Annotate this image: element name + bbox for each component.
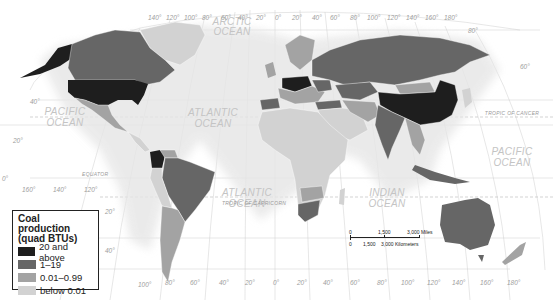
country-tasmania (478, 255, 484, 262)
legend-item-below-001: below 0.01 (18, 285, 93, 296)
scale-tick (350, 235, 351, 240)
svg-text:60°: 60° (350, 279, 360, 286)
svg-text:140°: 140° (148, 14, 162, 21)
scale-tick (384, 235, 385, 238)
legend-swatch (18, 260, 36, 269)
longitude-labels-left: 160° 140° 120° (22, 186, 98, 193)
svg-text:20°: 20° (12, 137, 23, 144)
legend-swatch (18, 273, 36, 282)
svg-text:140°: 140° (406, 14, 420, 21)
country-madagascar (339, 188, 345, 205)
svg-text:80°: 80° (377, 279, 387, 286)
longitude-labels-top: 140° 120° 100° 80° 60° 40° 20° 0° 20° 40… (148, 14, 458, 21)
svg-text:20°: 20° (296, 279, 307, 286)
svg-text:60°: 60° (330, 14, 340, 21)
scale-line (350, 237, 420, 238)
svg-text:120°: 120° (387, 14, 401, 21)
svg-text:40°: 40° (323, 279, 333, 286)
legend-swatch (18, 247, 35, 256)
svg-text:60°: 60° (221, 14, 231, 21)
svg-text:160°: 160° (480, 279, 494, 286)
svg-text:40°: 40° (312, 14, 322, 21)
svg-text:100°: 100° (401, 279, 415, 286)
svg-text:20°: 20° (291, 14, 302, 21)
svg-text:80°: 80° (350, 14, 360, 21)
equator-label: EQUATOR (82, 171, 108, 177)
scale-tick (419, 235, 420, 238)
svg-text:120°: 120° (84, 186, 98, 193)
svg-text:0°: 0° (2, 175, 9, 182)
svg-text:140°: 140° (53, 186, 67, 193)
legend-item-001-099: 0.01–0.99 (18, 272, 93, 283)
svg-text:80°: 80° (468, 27, 478, 34)
tropic-of-cancer-label: TROPIC OF CANCER (485, 110, 540, 116)
country-south-africa (298, 200, 320, 222)
legend-title: Coal production (18, 214, 93, 234)
longitude-labels-bottom: 100° 80° 60° 40° 20° 0° 20° 40° 60° 80° … (138, 279, 521, 288)
country-spain (260, 98, 280, 110)
svg-text:180°: 180° (507, 279, 521, 286)
svg-text:20°: 20° (104, 208, 115, 215)
scale-bar: 0 1,500 3,000 Miles 0 1,500 3,000 Kilome… (349, 229, 439, 253)
country-australia (440, 198, 495, 250)
svg-text:40°: 40° (30, 98, 40, 105)
svg-text:100°: 100° (184, 14, 198, 21)
atlantic-ocean-north-label: ATLANTICOCEAN (187, 107, 238, 129)
svg-text:160°: 160° (425, 14, 439, 21)
pacific-ocean-east-label: PACIFICOCEAN (492, 146, 533, 168)
svg-text:20°: 20° (255, 14, 266, 21)
svg-text:120°: 120° (427, 279, 441, 286)
svg-text:80°: 80° (165, 279, 175, 286)
legend: Coal production (quad BTUs) 20 and above… (12, 210, 99, 290)
indian-ocean-label: INDIANOCEAN (368, 187, 406, 209)
legend-swatch (18, 286, 36, 295)
svg-text:160°: 160° (22, 186, 36, 193)
svg-text:40°: 40° (219, 279, 229, 286)
legend-item-20-above: 20 and above (18, 246, 93, 257)
svg-text:100°: 100° (138, 281, 152, 288)
svg-text:60°: 60° (520, 63, 530, 70)
region-chile-argentina (160, 206, 185, 282)
svg-text:40°: 40° (238, 14, 248, 21)
svg-text:180°: 180° (444, 14, 458, 21)
svg-text:80°: 80° (202, 14, 212, 21)
svg-text:140°: 140° (452, 279, 466, 286)
tropic-of-capricorn-label: TROPIC OF CAPRICORN (222, 200, 286, 206)
svg-text:100°: 100° (367, 14, 381, 21)
svg-text:20°: 20° (244, 279, 255, 286)
pacific-ocean-west-label: PACIFICOCEAN (45, 106, 86, 128)
svg-text:60°: 60° (190, 279, 200, 286)
svg-text:120°: 120° (166, 14, 180, 21)
svg-text:0°: 0° (275, 14, 282, 21)
svg-text:0°: 0° (273, 279, 280, 286)
svg-text:40°: 40° (105, 247, 115, 254)
